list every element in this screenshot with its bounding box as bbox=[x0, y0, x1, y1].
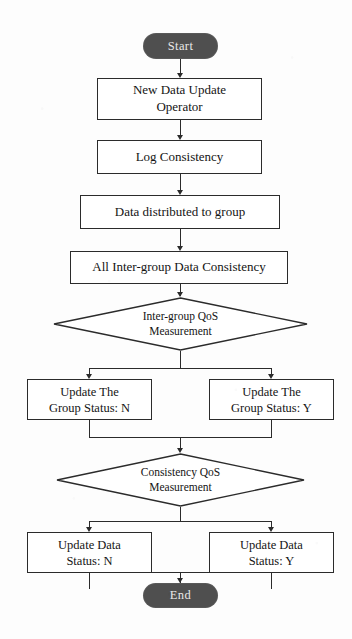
connector-qos2-bus bbox=[89, 521, 271, 522]
caption-remnant bbox=[0, 622, 352, 639]
node-new-data-update-operator[interactable]: New Data Update Operator bbox=[97, 78, 262, 120]
node-update-data-status-n-line1: Update Data bbox=[32, 537, 147, 553]
node-all-inter-group-data-consistency[interactable]: All Inter-group Data Consistency bbox=[70, 251, 288, 284]
node-new-data-update-operator-line2: Operator bbox=[102, 99, 257, 116]
node-update-data-status-y-line2: Status: Y bbox=[214, 553, 329, 569]
node-update-data-status-n[interactable]: Update Data Status: N bbox=[27, 532, 152, 573]
connector-datastatus-n-down bbox=[89, 573, 90, 589]
node-update-data-status-y[interactable]: Update Data Status: Y bbox=[209, 532, 334, 573]
node-all-inter-group-data-consistency-label: All Inter-group Data Consistency bbox=[75, 259, 283, 276]
node-consistency-qos-measurement-line2: Measurement bbox=[149, 481, 212, 493]
node-inter-group-qos-measurement[interactable]: Inter-group QoS Measurement bbox=[53, 297, 308, 351]
node-data-distributed-to-group-label: Data distributed to group bbox=[85, 204, 275, 221]
node-start[interactable]: Start bbox=[143, 33, 218, 59]
node-update-data-status-y-line1: Update Data bbox=[214, 537, 329, 553]
node-inter-group-qos-measurement-line1: Inter-group QoS bbox=[143, 310, 218, 322]
node-update-group-status-y[interactable]: Update The Group Status: Y bbox=[209, 379, 334, 420]
node-consistency-qos-measurement-line1: Consistency QoS bbox=[141, 466, 221, 478]
node-new-data-update-operator-line1: New Data Update bbox=[102, 82, 257, 99]
node-update-group-status-y-line1: Update The bbox=[214, 384, 329, 400]
node-inter-group-qos-measurement-line2: Measurement bbox=[149, 325, 212, 337]
node-data-distributed-to-group[interactable]: Data distributed to group bbox=[80, 195, 280, 229]
node-update-group-status-n-line1: Update The bbox=[32, 384, 147, 400]
node-end[interactable]: End bbox=[143, 583, 218, 608]
connector-datastatus-y-down bbox=[271, 573, 272, 589]
connector-groupstatus-y-down bbox=[271, 420, 272, 438]
connector-qos1-stem bbox=[180, 351, 181, 368]
node-start-label: Start bbox=[168, 39, 194, 54]
node-update-data-status-n-line2: Status: N bbox=[32, 553, 147, 569]
connector-groupstatus-n-down bbox=[89, 420, 90, 438]
node-update-group-status-n[interactable]: Update The Group Status: N bbox=[27, 379, 152, 420]
node-end-label: End bbox=[170, 588, 191, 603]
flowchart-canvas: Start New Data Update Operator Log Consi… bbox=[0, 0, 352, 639]
connector-qos1-bus bbox=[89, 368, 271, 369]
node-log-consistency[interactable]: Log Consistency bbox=[97, 140, 262, 174]
node-update-group-status-n-line2: Group Status: N bbox=[32, 400, 147, 416]
node-update-group-status-y-line2: Group Status: Y bbox=[214, 400, 329, 416]
connector-qos2-stem bbox=[180, 507, 181, 522]
node-consistency-qos-measurement[interactable]: Consistency QoS Measurement bbox=[56, 453, 305, 507]
node-log-consistency-label: Log Consistency bbox=[102, 149, 257, 166]
